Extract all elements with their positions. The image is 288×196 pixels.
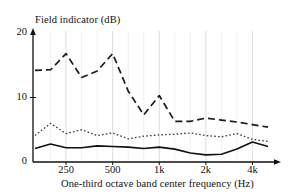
series-line-solid [35,142,268,155]
data-series-group [35,54,268,155]
x-tick-label: 1k [144,164,174,175]
chart-figure: Field indicator (dB) One-third octave ba… [0,0,288,196]
x-axis-arrow [274,159,281,165]
axis-lines [30,28,281,165]
y-tick-label: 20 [5,26,27,37]
x-tick-label: 4k [237,164,267,175]
series-line-dashed [35,54,268,128]
y-tick-label: 0 [5,155,27,166]
x-tick-label: 250 [51,164,81,175]
series-line-dotted [35,123,268,141]
y-axis-arrow [30,28,36,35]
x-tick-label: 2k [191,164,221,175]
y-tick-label: 10 [5,91,27,102]
x-tick-label: 500 [98,164,128,175]
vertical-gridlines [51,31,253,162]
